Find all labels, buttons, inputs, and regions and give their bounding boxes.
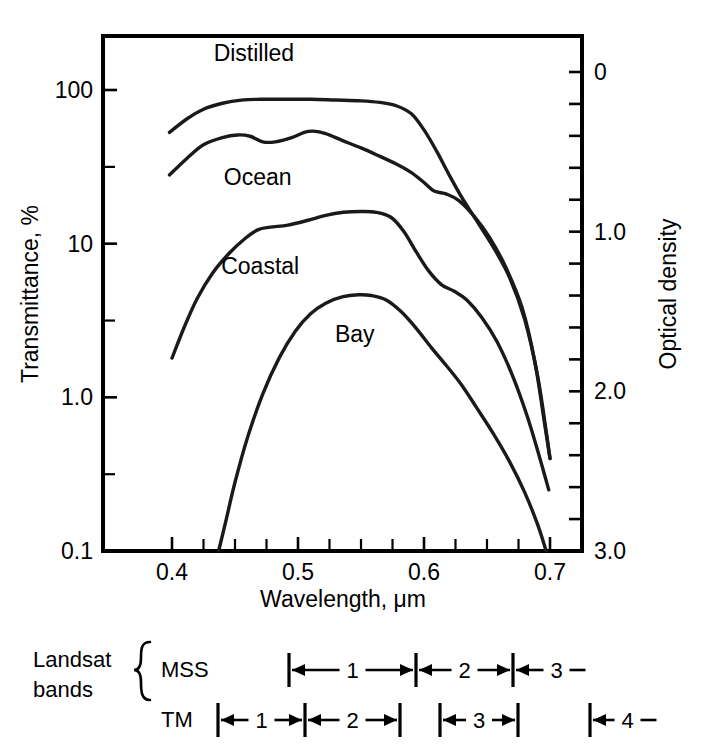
- band-number: 3: [550, 658, 562, 683]
- left-axis-ticks: [103, 90, 117, 551]
- band-arrow-head: [497, 664, 510, 676]
- landsat-group-label-line1: Landsat: [33, 647, 111, 672]
- band-arrow-head: [289, 714, 302, 726]
- landsat-row-label-tm: TM: [161, 707, 193, 732]
- plot-frame: [103, 36, 582, 551]
- band-arrow-head: [593, 714, 606, 726]
- band-arrow-head: [419, 664, 432, 676]
- landsat-row-label-mss: MSS: [161, 657, 209, 682]
- x-axis-title: Wavelength, μm: [260, 586, 426, 612]
- band-arrow-head: [443, 714, 456, 726]
- band-arrow-head: [292, 664, 305, 676]
- y-tick-label: 1.0: [61, 384, 93, 410]
- figure-container: 100101.00.1 01.02.03.0 0.40.50.60.7 Dist…: [0, 0, 710, 751]
- curve-distilled: [169, 99, 550, 458]
- band-number: 1: [346, 658, 358, 683]
- curve-label-coastal: Coastal: [221, 253, 299, 279]
- curve-labels: DistilledOceanCoastalBay: [214, 40, 375, 347]
- band-arrow-head: [502, 714, 515, 726]
- left-axis-tick-labels: 100101.00.1: [55, 77, 93, 564]
- y-tick-label: 10: [67, 231, 93, 257]
- y2-tick-label: 1.0: [594, 219, 626, 245]
- y-tick-label: 100: [55, 77, 93, 103]
- x-tick-label: 0.6: [408, 559, 440, 585]
- y-tick-label: 0.1: [61, 538, 93, 564]
- y-axis-title: Transmittance, %: [17, 205, 43, 383]
- band-number: 3: [473, 708, 485, 733]
- curve-label-distilled: Distilled: [214, 40, 295, 66]
- curve-label-bay: Bay: [335, 321, 375, 347]
- water-transmittance-chart: 100101.00.1 01.02.03.0 0.40.50.60.7 Dist…: [0, 0, 710, 751]
- y2-tick-label: 2.0: [594, 378, 626, 404]
- curve-label-ocean: Ocean: [224, 164, 292, 190]
- y2-tick-label: 3.0: [594, 538, 626, 564]
- band-arrow-head: [516, 664, 529, 676]
- x-axis-tick-labels: 0.40.50.60.7: [156, 559, 566, 585]
- landsat-group-label-line2: bands: [33, 677, 93, 702]
- x-axis-ticks: [172, 537, 550, 551]
- band-arrow-head: [308, 714, 321, 726]
- band-arrow-head: [221, 714, 234, 726]
- x-tick-label: 0.4: [156, 559, 188, 585]
- x-tick-label: 0.7: [534, 559, 566, 585]
- y2-axis-title: Optical density: [655, 218, 681, 369]
- y2-tick-label: 0: [594, 59, 607, 85]
- landsat-brace: [134, 642, 150, 700]
- landsat-band-markers: 1231234: [218, 653, 657, 737]
- band-number: 2: [346, 708, 358, 733]
- band-arrow-head: [400, 664, 413, 676]
- right-axis-tick-labels: 01.02.03.0: [594, 59, 626, 564]
- band-number: 1: [255, 708, 267, 733]
- band-number: 4: [621, 708, 633, 733]
- band-number: 2: [458, 658, 470, 683]
- x-tick-label: 0.5: [282, 559, 314, 585]
- curve-bay: [219, 295, 547, 551]
- band-arrow-head: [384, 714, 397, 726]
